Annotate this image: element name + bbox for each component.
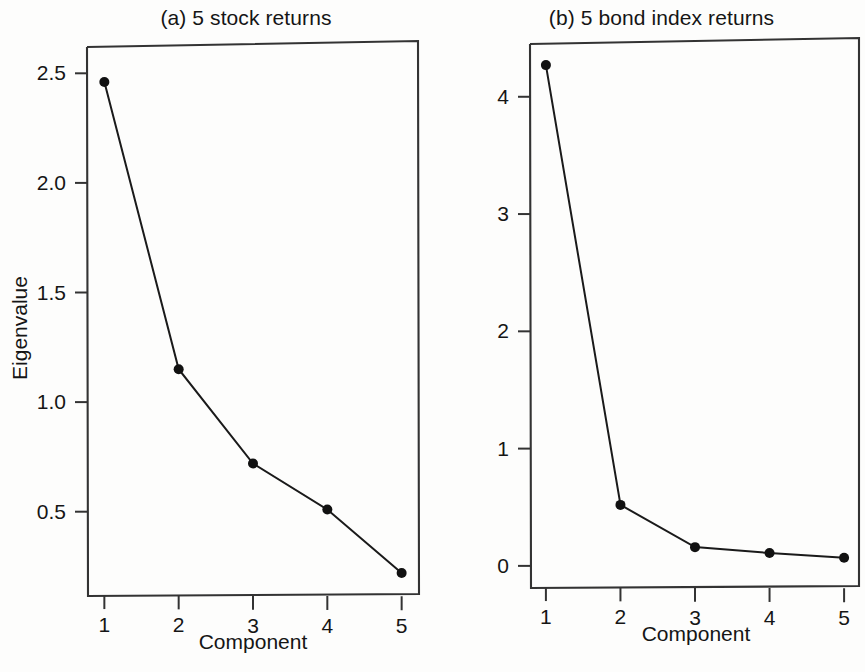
data-point-marker xyxy=(248,458,258,468)
x-tick-label: 4 xyxy=(321,614,333,638)
y-tick-label: 0.5 xyxy=(0,500,66,524)
data-point-marker xyxy=(615,500,625,510)
data-point-marker xyxy=(174,364,184,374)
panel-b-x-ticks xyxy=(546,587,844,602)
panel-a-data-points xyxy=(99,77,406,578)
y-tick-label: 2.0 xyxy=(0,171,66,195)
panel-b-y-ticks xyxy=(518,97,531,566)
x-tick-label: 5 xyxy=(838,606,850,630)
data-point-marker xyxy=(322,505,332,515)
y-tick-label: 4 xyxy=(421,85,509,109)
x-tick-label: 1 xyxy=(540,605,552,629)
data-point-marker xyxy=(765,548,775,558)
panel-a-x-ticks xyxy=(104,595,401,610)
panel-b-data-line xyxy=(546,65,844,558)
y-tick-label: 3 xyxy=(421,202,509,226)
y-tick-label: 1.0 xyxy=(0,390,66,414)
x-tick-label: 2 xyxy=(615,605,627,629)
y-tick-label: 0 xyxy=(421,554,509,578)
x-tick-label: 3 xyxy=(247,614,259,638)
panel-a-y-ticks xyxy=(75,73,88,511)
data-point-marker xyxy=(99,77,109,87)
y-tick-label: 1.5 xyxy=(0,281,66,305)
x-tick-label: 1 xyxy=(99,613,111,637)
x-tick-label: 5 xyxy=(396,614,408,638)
scree-plot-figure: (a) 5 stock returns Eigenvalue Component… xyxy=(0,0,865,672)
x-tick-label: 2 xyxy=(173,613,185,637)
panel-a-frame xyxy=(87,41,419,596)
data-point-marker xyxy=(690,542,700,552)
y-tick-label: 2.5 xyxy=(0,61,66,85)
y-tick-label: 2 xyxy=(421,319,509,343)
data-point-marker xyxy=(839,553,849,563)
panel-bond-index-returns: (b) 5 bond index returns Eigenvalue Comp… xyxy=(440,0,865,672)
x-tick-label: 3 xyxy=(689,606,701,630)
panel-b-frame xyxy=(530,38,859,588)
x-tick-label: 4 xyxy=(764,606,776,630)
data-point-marker xyxy=(397,568,407,578)
panel-a-data-line xyxy=(104,82,401,573)
data-point-marker xyxy=(541,60,551,70)
panel-stock-returns: (a) 5 stock returns Eigenvalue Component… xyxy=(0,0,440,672)
panel-a-plot xyxy=(0,0,440,672)
y-tick-label: 1 xyxy=(421,437,509,461)
